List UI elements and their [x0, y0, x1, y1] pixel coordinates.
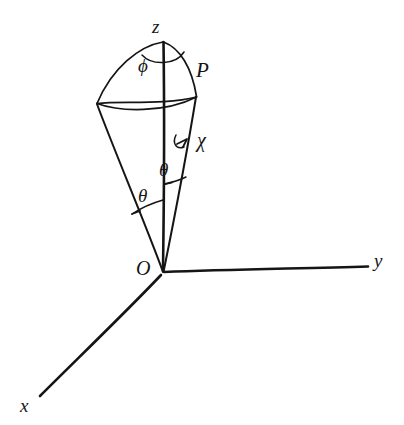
- x-axis-line: [40, 275, 161, 396]
- y-axis-label: y: [374, 251, 382, 270]
- theta-left-angle-label: θ: [138, 186, 147, 205]
- y-axis-line: [164, 267, 368, 273]
- point-p-label: P: [196, 60, 209, 81]
- theta-right-angle-label: θ: [159, 160, 168, 179]
- phi-angle-label: ϕ: [138, 56, 148, 75]
- cone-left-generator: [97, 104, 163, 272]
- chi-arrow-head: [177, 139, 187, 147]
- x-axis-label: x: [20, 396, 28, 415]
- cap-left-meridian-arc: [97, 42, 163, 104]
- axes-group: [40, 42, 368, 396]
- chi-annotation-label: χ: [197, 130, 206, 150]
- z-axis-line: [163, 42, 164, 271]
- chi-rotation-arrow-group: [174, 135, 187, 148]
- z-axis-label: z: [152, 17, 159, 36]
- cap-right-meridian-arc: [164, 42, 197, 97]
- origin-label: O: [136, 258, 150, 278]
- cone-right-generator-to-P: [164, 97, 197, 272]
- spherical-coordinates-figure: z y x P O ϕ θ θ χ: [0, 0, 404, 425]
